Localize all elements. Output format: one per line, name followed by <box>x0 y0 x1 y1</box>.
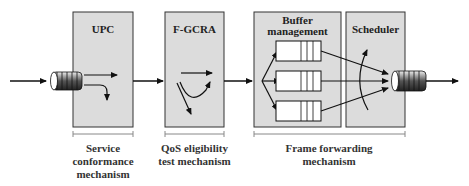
output-queue-icon <box>392 71 427 91</box>
scheduler-title: Scheduler <box>352 23 399 35</box>
caption-service-line1: Service <box>86 142 120 154</box>
buffer-queue-3 <box>276 101 321 121</box>
fgcra-block: F-GCRA <box>165 12 224 127</box>
upc-block: UPC <box>73 12 133 127</box>
frame-forwarding-diagram: UPC F-GCRA Buffer management Scheduler <box>0 0 469 186</box>
fgcra-title: F-GCRA <box>173 23 216 35</box>
buffer-queue-2 <box>276 71 321 91</box>
bracket-qos <box>165 131 224 137</box>
caption-forwarding-line2: mechanism <box>302 155 355 167</box>
caption-qos-line1: QoS eligibility <box>161 142 228 154</box>
caption-service-line2: conformance <box>72 155 133 167</box>
input-queue-icon <box>51 72 83 90</box>
upc-title: UPC <box>92 23 115 35</box>
caption-forwarding-line1: Frame forwarding <box>285 142 373 154</box>
bracket-service <box>73 131 133 137</box>
buffer-title-line2: management <box>267 25 328 37</box>
caption-service-line3: mechanism <box>76 168 129 180</box>
caption-qos-line2: test mechanism <box>158 155 230 167</box>
buffer-queue-1 <box>276 41 321 61</box>
bracket-forwarding <box>254 131 405 137</box>
